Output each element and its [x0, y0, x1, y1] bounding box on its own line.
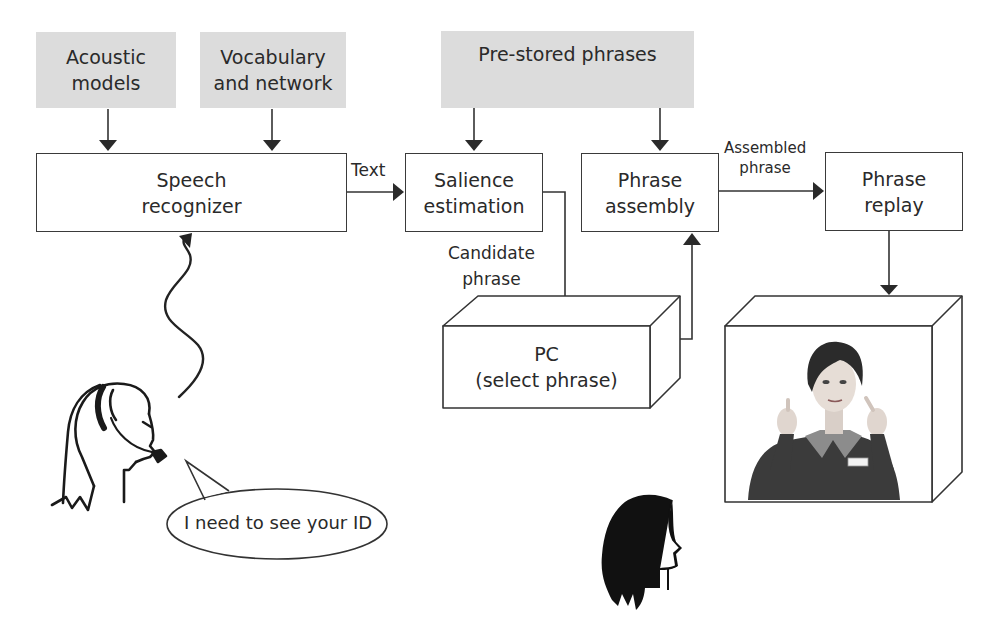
acoustic-models-label-1: Acoustic	[66, 44, 146, 70]
speech-wave-arrow	[165, 233, 203, 397]
salience-label-2: estimation	[424, 193, 525, 219]
arrow-assembly-to-replay	[719, 182, 824, 200]
prestored-phrases-box: Pre-stored phrases	[441, 31, 694, 108]
assembled-label-2: phrase	[724, 158, 806, 178]
salience-label-1: Salience	[424, 167, 525, 193]
acoustic-models-box: Acoustic models	[36, 32, 176, 108]
replay-label-1: Phrase	[862, 166, 927, 192]
speech-recognizer-box: Speech recognizer	[36, 153, 347, 232]
edge-label-candidate-phrase: Candidate phrase	[448, 240, 535, 292]
vocabulary-label-2: and network	[214, 70, 333, 96]
candidate-label-2: phrase	[448, 266, 535, 292]
arrow-vocabulary-to-recognizer	[263, 109, 281, 151]
vocabulary-label-1: Vocabulary	[214, 44, 333, 70]
edge-label-text: Text	[351, 159, 385, 181]
pc-label-2: (select phrase)	[475, 367, 617, 393]
speech-recognizer-label-1: Speech	[141, 167, 241, 193]
listener-person-icon	[602, 495, 682, 610]
assembly-label-2: assembly	[605, 193, 695, 219]
prestored-phrases-label: Pre-stored phrases	[478, 41, 656, 67]
speech-bubble-text: I need to see your ID	[184, 512, 372, 533]
speaker-headset-icon	[52, 384, 166, 510]
replay-label-2: replay	[862, 192, 927, 218]
arrow-recognizer-to-salience	[347, 183, 404, 201]
salience-estimation-box: Salience estimation	[405, 153, 543, 232]
assembly-label-1: Phrase	[605, 167, 695, 193]
assembled-label-1: Assembled	[724, 138, 806, 158]
speech-recognizer-label-2: recognizer	[141, 193, 241, 219]
arrow-acoustic-to-recognizer	[99, 109, 117, 151]
phrase-replay-box: Phrase replay	[825, 152, 963, 231]
pc-label-1: PC	[534, 341, 559, 367]
candidate-label-1: Candidate	[448, 240, 535, 266]
arrow-replay-to-avatar	[880, 231, 898, 295]
arrow-salience-to-pc	[543, 192, 574, 310]
arrow-prestored-to-assembly	[651, 108, 669, 151]
speech-bubble-shape	[167, 461, 387, 559]
phrase-assembly-box: Phrase assembly	[581, 153, 719, 232]
vocabulary-network-box: Vocabulary and network	[200, 32, 346, 108]
acoustic-models-label-2: models	[66, 70, 146, 96]
arrow-prestored-to-salience	[465, 108, 483, 151]
pc-select-phrase-label: PC (select phrase)	[443, 326, 650, 408]
edge-label-assembled-phrase: Assembled phrase	[724, 138, 806, 178]
